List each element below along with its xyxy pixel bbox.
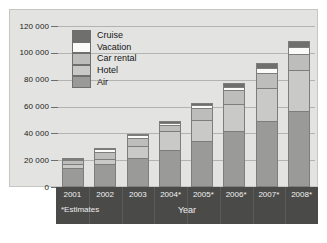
legend-swatch-icon bbox=[72, 30, 91, 42]
bar-segment-hotel bbox=[256, 88, 278, 122]
x-axis-tick-label: 2002 bbox=[89, 189, 122, 202]
bar-segment-hotel bbox=[159, 131, 181, 150]
legend-swatch-icon bbox=[72, 76, 91, 88]
y-axis-tick-label: 0 bbox=[44, 183, 49, 192]
chart-figure: 120 000100 00080 00060 00040 00020 0000 … bbox=[9, 9, 318, 224]
bar-stack bbox=[256, 63, 278, 187]
bar-segment-hotel bbox=[223, 104, 245, 131]
bar-segment-car-rental bbox=[127, 138, 149, 146]
x-axis-tick-label: 2005* bbox=[187, 189, 220, 202]
x-axis-band: 2001200220032004*2005*2006*2007*2008* *E… bbox=[56, 187, 318, 224]
bar-segment-car-rental bbox=[94, 152, 116, 159]
bar-segment-car-rental bbox=[288, 54, 310, 70]
x-axis-tick-labels: 2001200220032004*2005*2006*2007*2008* bbox=[56, 189, 318, 202]
y-axis-tick-label: 100 000 bbox=[19, 48, 49, 57]
bar-segment-car-rental bbox=[159, 125, 181, 132]
bar-stack bbox=[288, 41, 310, 187]
legend-item-air: Air bbox=[72, 76, 137, 88]
y-axis-tick-label: 20 000 bbox=[24, 156, 49, 165]
y-axis-tick-label: 60 000 bbox=[24, 102, 49, 111]
legend-label: Cruise bbox=[97, 30, 123, 41]
bar-segment-air bbox=[256, 121, 278, 187]
legend-swatch-icon bbox=[72, 53, 91, 65]
y-axis-tick-label: 80 000 bbox=[24, 75, 49, 84]
legend-swatch-icon bbox=[72, 65, 91, 77]
bar-segment-hotel bbox=[127, 146, 149, 158]
x-axis-tick-label: 2006* bbox=[220, 189, 253, 202]
bar-segment-hotel bbox=[288, 70, 310, 110]
bar-segment-car-rental bbox=[191, 108, 213, 120]
bar-segment-air bbox=[62, 168, 84, 187]
x-axis-tick-label: 2003 bbox=[122, 189, 155, 202]
legend-item-cruise: Cruise bbox=[72, 30, 137, 42]
bar-segment-air bbox=[191, 141, 213, 187]
bar-segment-vacation bbox=[288, 47, 310, 54]
plot-panel: 120 000100 00080 00060 00040 00020 0000 … bbox=[9, 9, 318, 187]
bar-segment-hotel bbox=[191, 120, 213, 141]
source-caption bbox=[10, 231, 310, 239]
legend-item-car-rental: Car rental bbox=[72, 53, 137, 65]
legend-swatch-icon bbox=[72, 42, 91, 54]
bar-segment-car-rental bbox=[256, 73, 278, 88]
legend-label: Hotel bbox=[97, 65, 118, 76]
legend-label: Vacation bbox=[97, 42, 131, 53]
x-axis-tick-label: 2007* bbox=[253, 189, 286, 202]
bar-segment-air bbox=[159, 150, 181, 187]
bar-segment-air bbox=[223, 131, 245, 187]
bar-stack bbox=[94, 148, 116, 187]
bar-stack bbox=[191, 103, 213, 187]
y-axis-tick-label: 40 000 bbox=[24, 129, 49, 138]
bar-stack bbox=[127, 134, 149, 187]
legend-label: Air bbox=[97, 77, 108, 88]
x-axis-tick-label: 2001 bbox=[56, 189, 89, 202]
chart-legend: CruiseVacationCar rentalHotelAir bbox=[72, 30, 137, 88]
x-axis-title: Year bbox=[56, 205, 318, 215]
bar-segment-air bbox=[127, 158, 149, 187]
legend-item-vacation: Vacation bbox=[72, 42, 137, 54]
bar-segment-air bbox=[288, 111, 310, 187]
x-axis-tick-label: 2008* bbox=[285, 189, 318, 202]
y-axis-tick-label: 120 000 bbox=[19, 22, 49, 31]
bar-stack bbox=[223, 83, 245, 187]
x-axis-tick-label: 2004* bbox=[154, 189, 187, 202]
legend-label: Car rental bbox=[97, 53, 137, 64]
bar-stack bbox=[62, 158, 84, 187]
bar-segment-air bbox=[94, 164, 116, 187]
bar-segment-car-rental bbox=[223, 90, 245, 103]
bar-stack bbox=[159, 121, 181, 187]
legend-item-hotel: Hotel bbox=[72, 65, 137, 77]
